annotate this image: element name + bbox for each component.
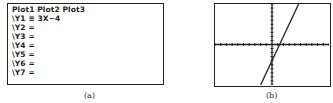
y7-line: \Y7 = [12, 69, 35, 78]
y-editor-screen: Plot1 Plot2 Plot3 \Y1 ≡ 3X−4 \Y2 = \Y3 =… [7, 3, 164, 85]
graph-screen [214, 3, 331, 87]
graph-plot [215, 4, 329, 85]
caption-b: (b) [266, 91, 277, 100]
caption-a: (a) [84, 91, 95, 100]
